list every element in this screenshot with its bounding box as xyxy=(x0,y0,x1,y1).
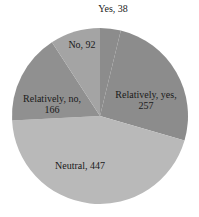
label-yes: Yes, 38 xyxy=(98,3,128,14)
label-no: No, 92 xyxy=(68,39,95,50)
label-relatively-no-line2: 166 xyxy=(23,104,81,115)
label-relatively-yes-line2: 257 xyxy=(115,100,176,111)
label-relatively-yes-line1: Relatively, yes, xyxy=(115,89,176,100)
label-neutral: Neutral, 447 xyxy=(55,160,105,171)
label-relatively-yes: Relatively, yes, 257 xyxy=(115,89,176,111)
label-relatively-no-line1: Relatively, no, xyxy=(23,93,81,104)
label-relatively-no: Relatively, no, 166 xyxy=(23,93,81,115)
